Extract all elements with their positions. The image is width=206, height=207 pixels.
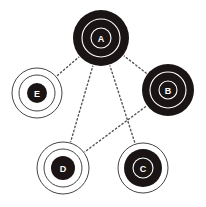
nodes-layer: ABCDE: [11, 9, 195, 195]
node-label: C: [140, 164, 147, 174]
node-d: D: [36, 141, 90, 195]
node-label: A: [98, 34, 105, 44]
network-diagram: ABCDE: [0, 0, 206, 207]
node-c: C: [117, 142, 169, 194]
node-b: B: [141, 63, 195, 117]
diagram-svg: ABCDE: [0, 0, 206, 207]
node-label: B: [165, 86, 172, 96]
node-label: E: [34, 89, 40, 99]
node-e: E: [11, 67, 63, 119]
node-a: A: [72, 9, 130, 67]
node-label: D: [60, 164, 67, 174]
